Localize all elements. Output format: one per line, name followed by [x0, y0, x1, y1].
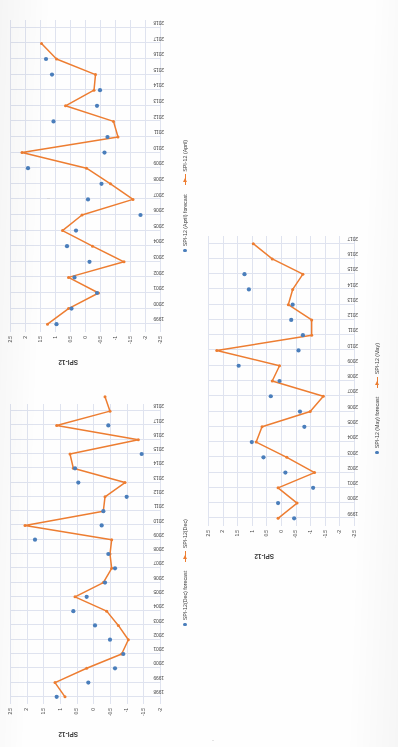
- scatter-marker-icon: [183, 249, 186, 252]
- y-axis-tick: 2: [219, 530, 225, 556]
- x-axis-tick: 2018: [154, 403, 164, 409]
- forecast-scatter-marker: [106, 552, 110, 556]
- x-axis-tick: 2015: [348, 266, 358, 272]
- forecast-scatter-marker: [102, 151, 106, 155]
- y-axis-tick: -2.5: [351, 530, 357, 556]
- forecast-scatter-marker: [138, 213, 142, 217]
- forecast-scatter-marker: [113, 666, 117, 670]
- forecast-scatter-marker: [26, 166, 30, 170]
- line-vertex-marker: [81, 214, 84, 217]
- y-axis-tick: -1: [123, 708, 129, 734]
- chart-april: SPI-12 SPI-12 (April) forecast SPI-12 (A…: [2, 6, 198, 372]
- y-axis-tick: -1: [112, 336, 118, 362]
- series-canvas: [10, 20, 160, 332]
- x-axis-tick: 2011: [348, 327, 358, 333]
- forecast-scatter-marker: [71, 609, 75, 613]
- y-axis-tick: 0: [90, 708, 96, 734]
- x-axis-tick: 1998: [154, 689, 164, 695]
- y-axis-tick: 2.5: [7, 708, 13, 734]
- forecast-scatter-marker: [242, 272, 246, 276]
- line-vertex-marker: [69, 453, 72, 456]
- y-axis-tick: 2.5: [205, 530, 211, 556]
- plot-area-december: [10, 404, 160, 704]
- line-vertex-marker: [110, 567, 113, 570]
- legend-label-april-line: SPI-12 (April): [182, 140, 188, 172]
- x-axis-tick: 2006: [154, 207, 164, 213]
- legend-label-december-forecast: SPI-12(Dec) forecast: [182, 571, 188, 620]
- scatter-marker-icon: [375, 451, 378, 454]
- line-vertex-marker: [55, 424, 58, 427]
- x-axis-tick: 2017: [154, 36, 164, 42]
- x-axis-tick: 1999: [348, 511, 358, 517]
- x-axis-tick: 2014: [348, 282, 358, 288]
- line-vertex-marker: [124, 481, 127, 484]
- line-vertex-marker: [61, 229, 64, 232]
- x-axis-tick: 2008: [348, 373, 358, 379]
- line-vertex-marker: [85, 667, 88, 670]
- x-axis-tick: 2011: [154, 503, 164, 509]
- line-vertex-marker: [291, 288, 294, 291]
- y-axis-tick: 2.5: [7, 336, 13, 362]
- x-axis-tick: 2009: [348, 358, 358, 364]
- x-axis-tick: 2013: [154, 98, 164, 104]
- y-axis-tick: 1: [52, 336, 58, 362]
- forecast-scatter-marker: [33, 538, 37, 542]
- line-vertex-marker: [109, 182, 112, 185]
- forecast-scatter-marker: [283, 470, 287, 474]
- y-axis-tick: 2: [22, 336, 28, 362]
- legend-may: SPI-12 (May) forecast SPI-12 (May): [374, 343, 380, 454]
- y-axis-tick: -0.5: [292, 530, 298, 556]
- forecast-scatter-marker: [105, 135, 109, 139]
- x-axis-tick: 2003: [348, 450, 358, 456]
- x-axis-tick: 2005: [154, 589, 164, 595]
- x-axis-tick: 2002: [348, 465, 358, 471]
- legend-item-april-line: SPI-12 (April): [182, 140, 188, 185]
- forecast-scatter-marker: [269, 394, 273, 398]
- forecast-scatter-marker: [95, 291, 99, 295]
- line-vertex-marker: [104, 495, 107, 498]
- x-axis-tick: 1999: [154, 316, 164, 322]
- x-axis-tick: 2018: [154, 20, 164, 26]
- forecast-scatter-marker: [302, 425, 306, 429]
- scanned-page: SPI-12 SPI-12 (April) forecast SPI-12 (A…: [0, 0, 398, 747]
- x-axis-tick: 2008: [154, 176, 164, 182]
- line-series-icon: [377, 377, 378, 388]
- line-vertex-marker: [127, 638, 130, 641]
- line-vertex-marker: [277, 517, 280, 520]
- forecast-scatter-marker: [277, 379, 281, 383]
- line-vertex-marker: [110, 538, 113, 541]
- forecast-scatter-marker: [237, 364, 241, 368]
- forecast-scatter-marker: [296, 348, 300, 352]
- legend-label-december-line: SPI-12(Dec): [182, 519, 188, 548]
- legend-item-may-line: SPI-12 (May): [374, 343, 380, 388]
- forecast-scatter-marker: [292, 516, 296, 520]
- line-vertex-marker: [64, 104, 67, 107]
- x-axis-tick: 2010: [154, 518, 164, 524]
- y-axis-tick: -0.5: [107, 708, 113, 734]
- line-vertex-marker: [132, 198, 135, 201]
- forecast-scatter-marker: [72, 275, 76, 279]
- line-vertex-marker: [94, 73, 97, 76]
- x-axis-tick: 2016: [154, 51, 164, 57]
- x-axis-tick: 2003: [154, 618, 164, 624]
- line-vertex-marker: [322, 395, 325, 398]
- x-axis-tick: 2007: [154, 192, 164, 198]
- x-axis-tick: 2000: [154, 661, 164, 667]
- forecast-scatter-marker: [289, 318, 293, 322]
- y-axis-tick: 0.5: [263, 530, 269, 556]
- line-vertex-marker: [271, 380, 274, 383]
- line-vertex-marker: [85, 167, 88, 170]
- x-axis-tick: 2007: [154, 561, 164, 567]
- forecast-scatter-marker: [99, 182, 103, 186]
- y-axis-tick: -1: [307, 530, 313, 556]
- line-vertex-marker: [255, 441, 258, 444]
- legend-label-may-line: SPI-12 (May): [374, 343, 380, 374]
- forecast-scatter-marker: [250, 440, 254, 444]
- plot-area-may: [208, 236, 354, 526]
- forecast-scatter-marker: [55, 695, 59, 699]
- line-vertex-marker: [215, 349, 218, 352]
- series-canvas: [208, 236, 354, 526]
- forecast-scatter-marker: [247, 287, 251, 291]
- x-axis-tick: 2008: [154, 546, 164, 552]
- x-axis-tick: 2004: [348, 434, 358, 440]
